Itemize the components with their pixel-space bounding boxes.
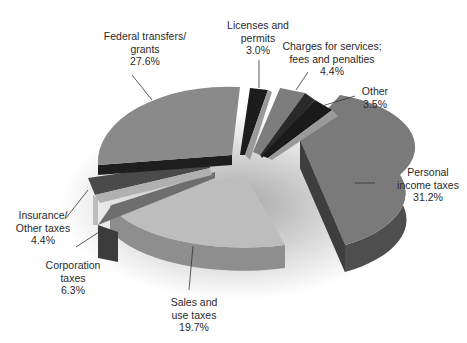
label-sales-use: Sales and use taxes 19.7% <box>160 296 228 334</box>
label-other: Other 3.5% <box>355 85 395 110</box>
label-personal-income: Personal income taxes 31.2% <box>390 166 466 204</box>
label-charges: Charges for services; fees and penalties… <box>276 40 388 78</box>
label-corporation: Corporation taxes 6.3% <box>38 259 108 297</box>
slice-federal-transfers-grants <box>98 87 240 175</box>
label-insurance: Insurance/ Other taxes 4.4% <box>10 209 76 247</box>
label-federal-transfers: Federal transfers/ grants 27.6% <box>90 30 200 68</box>
